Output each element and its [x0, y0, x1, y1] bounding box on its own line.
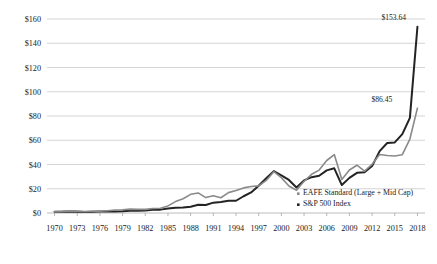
legend-label-sp500: S&P 500 Index — [303, 199, 351, 208]
endpoint-data-labels: $153.64$86.45 — [371, 13, 406, 104]
y-axis-label-60: $60 — [29, 136, 41, 145]
x-axis-label-1991: 1991 — [205, 224, 221, 233]
x-axis-label-1985: 1985 — [160, 224, 176, 233]
y-axis-tick-labels: $0$20$40$60$80$100$120$140$160 — [25, 15, 41, 218]
data-label-sp500-endpoint: $153.64 — [381, 13, 406, 22]
x-axis-label-1997: 1997 — [250, 224, 266, 233]
x-axis-label-2009: 2009 — [341, 224, 357, 233]
x-axis-label-1970: 1970 — [46, 224, 62, 233]
data-label-eafe-endpoint: $86.45 — [371, 95, 392, 104]
y-axis-label-120: $120 — [25, 64, 41, 73]
x-axis-label-2000: 2000 — [273, 224, 289, 233]
x-axis-label-2003: 2003 — [296, 224, 312, 233]
y-axis-label-80: $80 — [29, 112, 41, 121]
x-axis-label-1994: 1994 — [228, 224, 244, 233]
y-axis-label-160: $160 — [25, 15, 41, 24]
x-axis-label-1982: 1982 — [137, 224, 153, 233]
series-line-s-p-500-index — [55, 27, 418, 212]
x-axis-label-1973: 1973 — [69, 224, 85, 233]
x-axis-label-2006: 2006 — [319, 224, 335, 233]
x-axis-label-2015: 2015 — [387, 224, 403, 233]
y-axis-label-40: $40 — [29, 161, 41, 170]
x-axis-tick-labels: 1970197319761979198219851988199119941997… — [46, 224, 425, 233]
data-series-group — [55, 27, 418, 212]
chart-legend: EAFE Standard (Large + Mid Cap)S&P 500 I… — [297, 188, 414, 208]
x-axis-label-1976: 1976 — [92, 224, 108, 233]
x-axis-label-1988: 1988 — [182, 224, 198, 233]
y-axis-label-20: $20 — [29, 185, 41, 194]
x-axis-label-2012: 2012 — [364, 224, 380, 233]
legend-label-eafe: EAFE Standard (Large + Mid Cap) — [303, 188, 414, 197]
y-axis-label-100: $100 — [25, 88, 41, 97]
x-axis-label-2018: 2018 — [409, 224, 425, 233]
x-axis-label-1979: 1979 — [114, 224, 130, 233]
legend-marker-sp500 — [297, 203, 300, 206]
legend-marker-eafe — [297, 192, 300, 195]
y-axis-label-140: $140 — [25, 39, 41, 48]
growth-of-investment-line-chart: $0$20$40$60$80$100$120$140$160 197019731… — [0, 0, 437, 264]
chart-canvas: $0$20$40$60$80$100$120$140$160 197019731… — [0, 0, 437, 264]
gridlines-group — [47, 19, 425, 213]
y-axis-label-0: $0 — [33, 209, 41, 218]
